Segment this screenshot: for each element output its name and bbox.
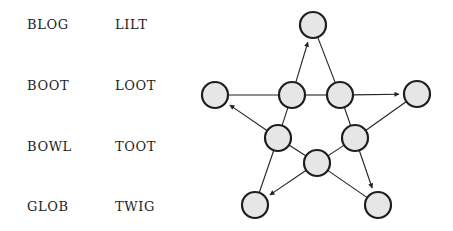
node-inner-top-left bbox=[279, 82, 305, 108]
node-left bbox=[202, 82, 228, 108]
arrow-edge-inner-right-to-bottom-right bbox=[359, 150, 372, 188]
node-bottom-right bbox=[365, 192, 391, 218]
edge-inner-top-right-to-inner-right bbox=[344, 107, 350, 125]
arrow-edge-inner-top-left-to-top bbox=[296, 42, 308, 82]
edge-inner-left-to-bottom-left bbox=[259, 150, 274, 192]
nodes bbox=[202, 12, 430, 218]
star-graph bbox=[0, 0, 453, 231]
node-inner-top-right bbox=[327, 82, 353, 108]
node-inner-right bbox=[342, 125, 368, 151]
node-top bbox=[300, 12, 326, 38]
node-bottom-left bbox=[242, 192, 268, 218]
edge-inner-bottom-to-inner-right bbox=[328, 145, 344, 156]
node-inner-left bbox=[265, 125, 291, 151]
node-right bbox=[404, 81, 430, 107]
arrow-edge-inner-top-right-to-right bbox=[353, 94, 399, 95]
node-inner-bottom bbox=[304, 150, 330, 176]
edge-top-to-inner-top-right bbox=[318, 37, 336, 83]
edge-inner-right-to-right bbox=[366, 102, 407, 131]
edge-inner-bottom-to-bottom-right bbox=[328, 170, 368, 197]
arrow-edge-inner-left-to-left bbox=[230, 105, 267, 131]
edge-inner-left-to-inner-bottom bbox=[289, 145, 306, 156]
arrow-edge-inner-bottom-to-bottom-left bbox=[270, 170, 306, 195]
edge-inner-top-left-to-inner-left bbox=[282, 107, 288, 125]
